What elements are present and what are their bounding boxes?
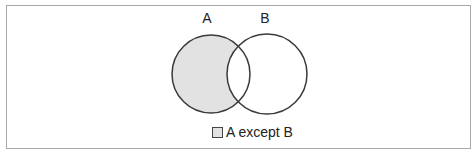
set-label-b: B <box>260 10 269 26</box>
legend-swatch <box>212 127 223 138</box>
set-label-a: A <box>202 10 211 26</box>
legend-label: A except B <box>226 124 293 140</box>
circle-b <box>227 34 307 114</box>
legend: A except B <box>212 124 293 140</box>
